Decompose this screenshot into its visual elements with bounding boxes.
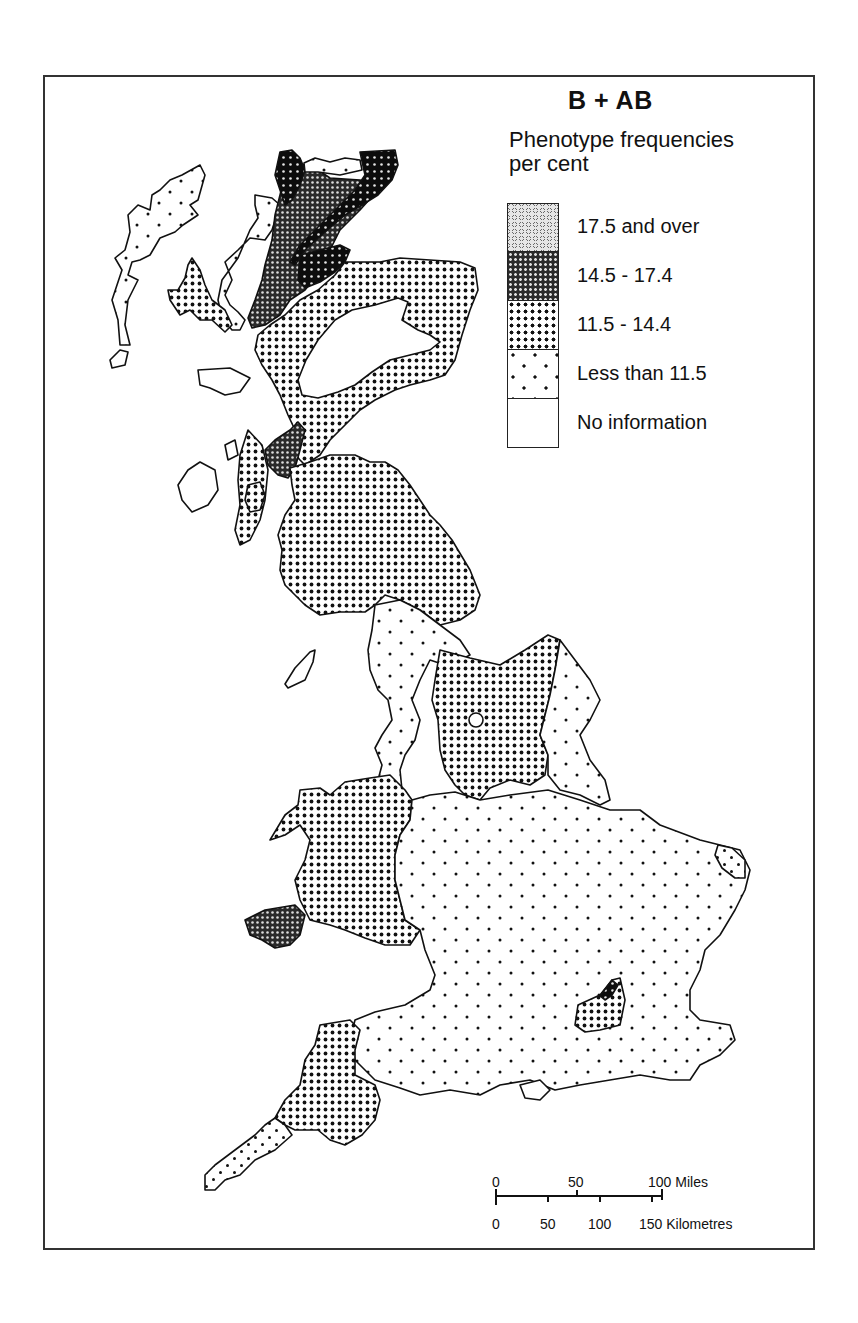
legend-swatch-blank — [507, 399, 559, 448]
isle-of-man — [285, 650, 315, 688]
small-islands — [225, 440, 238, 460]
legend: 17.5 and over 14.5 - 17.4 11.5 - 14.4 Le… — [507, 203, 767, 448]
map-subtitle: Phenotype frequencies per cent — [509, 128, 769, 176]
legend-swatch-dense-dots — [507, 301, 559, 350]
legend-item: Less than 11.5 — [507, 350, 767, 399]
yorkshire — [432, 635, 560, 800]
legend-swatch-very-dense — [507, 203, 559, 252]
west-cornwall — [205, 1118, 292, 1190]
map-title: B + AB — [568, 86, 653, 115]
southern-scotland-north-england — [278, 455, 480, 625]
legend-swatch-sparse-dots — [507, 350, 559, 399]
jura-islay — [178, 462, 218, 512]
scale-labels: 0 50 100 Miles 0 50 100 150 Kilometres — [484, 1160, 764, 1240]
north-coast-strip — [304, 158, 362, 175]
legend-item: 17.5 and over — [507, 203, 767, 252]
mull — [198, 368, 250, 395]
legend-item: No information — [507, 399, 767, 448]
outer-hebrides — [112, 165, 205, 345]
choropleth-map — [0, 0, 858, 1323]
legend-item: 14.5 - 17.4 — [507, 252, 767, 301]
pembrokeshire — [245, 905, 305, 948]
legend-swatch-dense-dark — [507, 252, 559, 301]
legend-item: 11.5 - 14.4 — [507, 301, 767, 350]
